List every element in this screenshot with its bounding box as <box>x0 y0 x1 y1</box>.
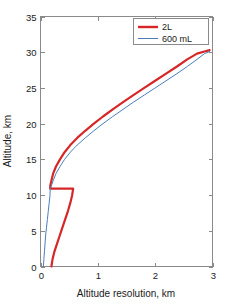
y-axis-ticks <box>41 18 213 268</box>
x-tick-label: 2 <box>153 270 158 281</box>
chart-legend[interactable]: 2L600 mL <box>134 19 209 45</box>
x-tick-label: 3 <box>211 270 216 281</box>
y-axis-tick-labels: 05101520253035 <box>26 12 37 273</box>
x-tick-label: 1 <box>96 270 101 281</box>
x-axis-title: Altitude resolution, km <box>77 288 175 299</box>
legend-label-600-ml: 600 mL <box>162 34 192 44</box>
y-tick-label: 15 <box>26 154 37 165</box>
x-axis-ticks <box>42 17 214 267</box>
y-tick-label: 35 <box>26 12 37 23</box>
data-series-group <box>43 50 209 266</box>
series-2l <box>50 50 209 266</box>
line-chart: 0123 05101520253035 Altitude resolution,… <box>0 0 227 305</box>
x-axis-tick-labels: 0123 <box>39 270 216 281</box>
axes-frame <box>41 17 213 267</box>
legend-label-2l: 2L <box>162 22 172 32</box>
y-tick-label: 5 <box>31 226 36 237</box>
y-tick-label: 25 <box>26 83 37 94</box>
x-tick-label: 0 <box>39 270 44 281</box>
series-600-ml <box>43 52 209 267</box>
y-axis-title: Altitude, km <box>2 115 13 167</box>
y-tick-label: 10 <box>26 190 37 201</box>
y-tick-label: 30 <box>26 47 37 58</box>
y-tick-label: 20 <box>26 119 37 130</box>
figure-container: 0123 05101520253035 Altitude resolution,… <box>0 0 227 305</box>
y-tick-label: 0 <box>31 262 36 273</box>
